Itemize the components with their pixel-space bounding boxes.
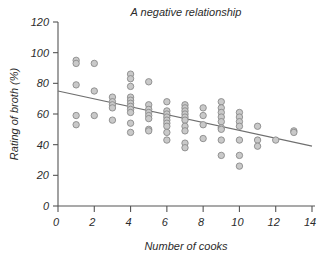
y-tick-label: 80 (37, 77, 50, 89)
data-point (109, 117, 115, 123)
data-point (164, 99, 170, 105)
data-point (146, 128, 152, 134)
y-axis-title: Rating of broth (%) (8, 68, 20, 161)
x-tick-label: 2 (88, 216, 95, 228)
data-point (146, 79, 152, 85)
data-point (218, 152, 224, 158)
x-tick-label: 14 (304, 216, 316, 228)
x-tick-label: 4 (126, 216, 132, 228)
chart-canvas: A negative relationship 020406080100120 … (0, 0, 327, 258)
data-point (127, 120, 133, 126)
data-point (91, 112, 97, 118)
data-point (164, 123, 170, 129)
data-point (236, 137, 242, 143)
data-point (200, 122, 206, 128)
y-tick-label: 100 (31, 47, 50, 59)
data-point (109, 105, 115, 111)
y-tick-label: 20 (36, 169, 50, 181)
data-point (182, 145, 188, 151)
y-tick-label: 120 (31, 16, 50, 28)
data-point (182, 117, 188, 123)
data-point (236, 163, 242, 169)
data-point (291, 129, 297, 135)
x-tick-label: 10 (231, 216, 244, 228)
data-point (218, 99, 224, 105)
x-tick-label: 12 (268, 216, 280, 228)
data-point (91, 88, 97, 94)
data-point (146, 115, 152, 121)
x-tick-label: 6 (162, 216, 169, 228)
data-point (91, 60, 97, 66)
data-point (273, 137, 279, 143)
y-axis: 020406080100120 Rating of broth (%) (8, 16, 58, 212)
data-point (200, 105, 206, 111)
data-point (218, 126, 224, 132)
data-point (218, 118, 224, 124)
y-tick-label: 0 (43, 200, 50, 212)
x-tick-group: 02468101214 (53, 206, 316, 228)
scatter-chart: A negative relationship 020406080100120 … (0, 0, 327, 258)
data-point (127, 109, 133, 115)
data-point (200, 135, 206, 141)
x-axis-title: Number of cooks (144, 240, 228, 252)
data-point (254, 123, 260, 129)
data-point (73, 122, 79, 128)
x-axis: 02468101214 Number of cooks (53, 206, 316, 252)
chart-title: A negative relationship (130, 6, 242, 18)
data-point (127, 76, 133, 82)
data-point (73, 82, 79, 88)
data-point (254, 143, 260, 149)
data-point (254, 137, 260, 143)
y-tick-label: 60 (37, 108, 50, 120)
data-point (200, 112, 206, 118)
data-point (236, 123, 242, 129)
data-point (127, 129, 133, 135)
data-point (127, 83, 133, 89)
data-point (73, 112, 79, 118)
data-point (164, 137, 170, 143)
y-tick-label: 40 (37, 139, 50, 151)
data-point (182, 128, 188, 134)
data-point (218, 137, 224, 143)
x-tick-label: 8 (198, 216, 205, 228)
x-tick-label: 0 (53, 216, 60, 228)
data-point (236, 152, 242, 158)
data-points (73, 57, 297, 169)
y-tick-group: 020406080100120 (31, 16, 58, 212)
data-point (73, 60, 79, 66)
data-point (164, 129, 170, 135)
